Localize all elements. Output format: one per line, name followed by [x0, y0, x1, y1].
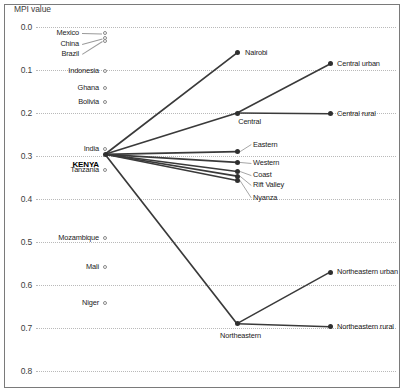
region-label: Eastern [253, 140, 277, 149]
region-label: Nyanza [253, 193, 277, 202]
subregion-label: Northeastern urban [337, 267, 398, 276]
region-label: Nairobi [245, 48, 267, 57]
country-marker [103, 100, 107, 104]
country-label: Indonesia [0, 66, 99, 75]
connector-line [237, 113, 330, 114]
chart-figure: MPI value 0.00.10.20.30.40.50.60.70.8 Me… [0, 0, 404, 392]
region-marker [235, 160, 240, 165]
subregion-label: Central rural [337, 109, 376, 118]
connector-line [237, 64, 330, 113]
connector-line [105, 53, 237, 154]
kenya-hub-marker [103, 152, 108, 157]
country-label: Mozambique [0, 233, 99, 242]
subregion-marker [328, 270, 333, 275]
region-marker [235, 111, 240, 116]
country-label: Ghana [0, 83, 99, 92]
country-label: Mexico [0, 28, 79, 37]
subregion-marker [328, 111, 333, 116]
connector-line [105, 152, 237, 155]
connector-line [237, 324, 330, 327]
country-marker [103, 86, 107, 90]
country-marker [103, 147, 107, 151]
region-label: Rift Valley [253, 180, 284, 189]
country-label: Brazil [0, 49, 79, 58]
country-marker [103, 168, 107, 172]
connector-line [240, 162, 251, 163]
region-marker [235, 321, 240, 326]
kenya-label: KENYA [0, 160, 99, 169]
country-marker [103, 69, 107, 73]
subregion-label: Central urban [337, 59, 380, 68]
subregion-marker [328, 324, 333, 329]
country-label: Mali [0, 262, 99, 271]
region-marker [235, 149, 240, 154]
connector-line [240, 181, 251, 198]
connector-line [240, 176, 251, 185]
country-label: Niger [0, 298, 99, 307]
region-label: Northeastern [0, 331, 261, 340]
region-marker [235, 50, 240, 55]
connector-line [240, 145, 251, 152]
country-label: China [0, 39, 79, 48]
country-label: Bolivia [0, 97, 99, 106]
country-marker [103, 236, 107, 240]
connector-line [240, 171, 251, 175]
region-label: Coast [253, 170, 272, 179]
subregion-label: Northeastern rural [337, 322, 394, 331]
connector-line [105, 154, 237, 323]
country-marker [103, 265, 107, 269]
country-label: India [0, 144, 99, 153]
region-label: Central [0, 117, 261, 126]
region-marker [235, 178, 240, 183]
region-label: Western [253, 158, 279, 167]
connector-line [237, 272, 330, 324]
